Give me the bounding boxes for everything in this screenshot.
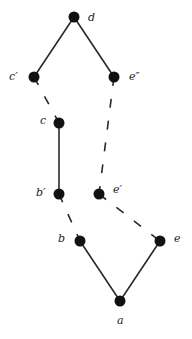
node-label-c: c bbox=[40, 114, 46, 127]
node-a bbox=[115, 296, 126, 307]
node-label-e2: e″ bbox=[129, 70, 141, 83]
node-e1 bbox=[94, 189, 105, 200]
node-b1 bbox=[54, 189, 65, 200]
node-c1 bbox=[29, 72, 40, 83]
edges bbox=[34, 17, 160, 301]
node-label-a: a bbox=[117, 314, 124, 327]
edge-e1-e bbox=[99, 194, 160, 241]
node-c bbox=[54, 118, 65, 129]
node-label-d: d bbox=[88, 11, 95, 24]
node-label-e1: e′ bbox=[113, 183, 123, 196]
node-b bbox=[75, 236, 86, 247]
node-d bbox=[69, 12, 80, 23]
node-label-b: b bbox=[58, 232, 65, 245]
node-label-b1: b′ bbox=[36, 186, 46, 199]
node-e2 bbox=[109, 72, 120, 83]
node-e bbox=[155, 236, 166, 247]
node-label-e: e bbox=[174, 232, 181, 245]
lattice-diagram: dc′e″cb′e′bea bbox=[0, 0, 192, 339]
node-label-c1: c′ bbox=[9, 70, 18, 83]
edge-e-a bbox=[120, 241, 160, 301]
labels: dc′e″cb′e′bea bbox=[9, 11, 181, 327]
edge-d-e2 bbox=[74, 17, 114, 77]
edge-e2-e1 bbox=[99, 77, 114, 194]
edge-c1-c bbox=[34, 77, 59, 123]
edge-d-c1 bbox=[34, 17, 74, 77]
edge-b-a bbox=[80, 241, 120, 301]
